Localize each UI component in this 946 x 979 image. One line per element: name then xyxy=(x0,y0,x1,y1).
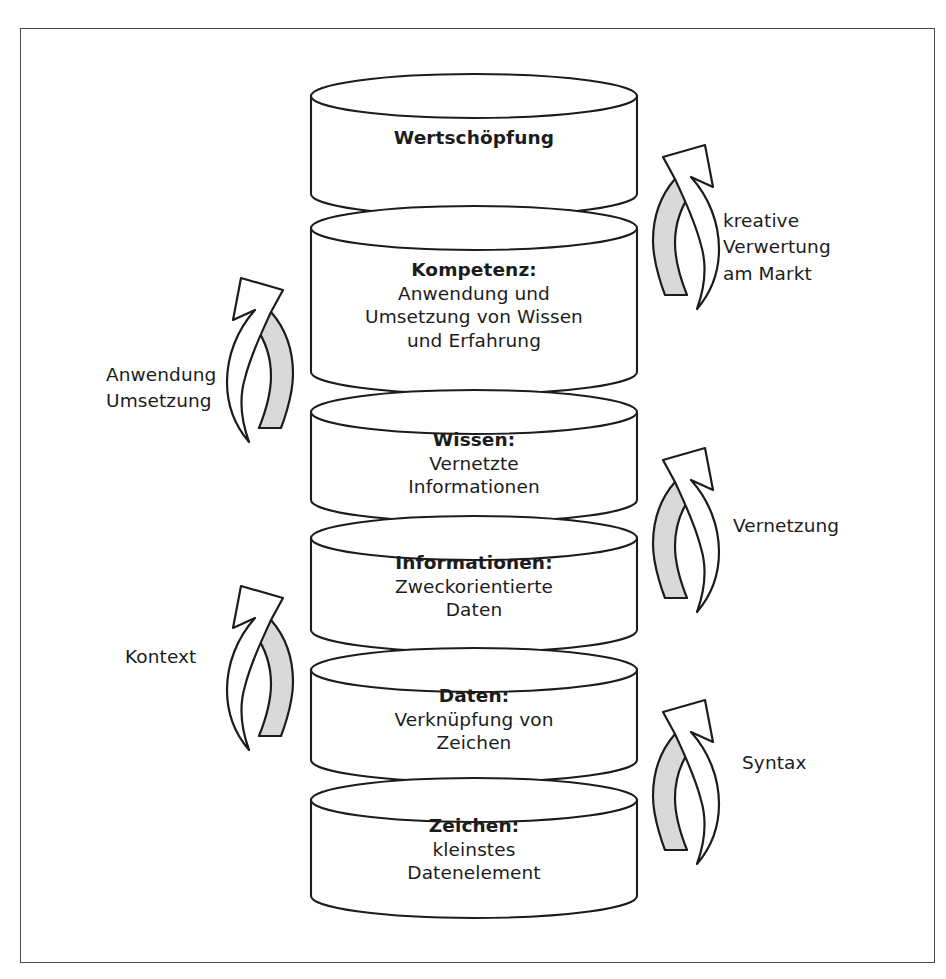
level-body-zeichen: kleinstes Datenelement xyxy=(311,838,637,885)
level-body-daten: Verknüpfung von Zeichen xyxy=(311,708,637,755)
level-body-kompetenz: Anwendung und Umsetzung von Wissen und E… xyxy=(301,282,647,353)
level-heading-zeichen: Zeichen: xyxy=(311,814,637,838)
level-label-daten: Daten: Verknüpfung von Zeichen xyxy=(311,684,637,755)
transition-label-kontext: Kontext xyxy=(125,644,295,670)
level-label-wissen: Wissen: Vernetzte Informationen xyxy=(311,428,637,499)
level-label-kompetenz: Kompetenz: Anwendung und Umsetzung von W… xyxy=(301,258,647,353)
arrow-syntax xyxy=(653,700,719,864)
level-heading-informationen: Informationen: xyxy=(311,551,637,575)
level-label-informationen: Informationen: Zweckorientierte Daten xyxy=(311,551,637,622)
diagram-stage: Wertschöpfung Kompetenz: Anwendung und U… xyxy=(0,0,946,979)
level-body-wissen: Vernetzte Informationen xyxy=(311,452,637,499)
arrow-vernetzung xyxy=(653,448,719,612)
arrow-anwendung-umsetzung xyxy=(227,278,293,442)
transition-label-vernetzung: Vernetzung xyxy=(733,513,923,539)
transition-label-syntax: Syntax xyxy=(742,750,932,776)
level-body-informationen: Zweckorientierte Daten xyxy=(311,575,637,622)
level-label-wertschoepfung: Wertschöpfung xyxy=(311,126,637,150)
transition-label-anwendung-umsetzung: Anwendung Umsetzung xyxy=(106,362,281,415)
level-heading-daten: Daten: xyxy=(311,684,637,708)
transition-label-kreative-verwertung: kreative Verwertung am Markt xyxy=(723,208,913,287)
arrow-kreative-verwertung xyxy=(653,145,719,309)
level-heading-wissen: Wissen: xyxy=(311,428,637,452)
level-heading-kompetenz: Kompetenz: xyxy=(301,258,647,282)
level-label-zeichen: Zeichen: kleinstes Datenelement xyxy=(311,814,637,885)
level-heading-wertschoepfung: Wertschöpfung xyxy=(311,126,637,150)
